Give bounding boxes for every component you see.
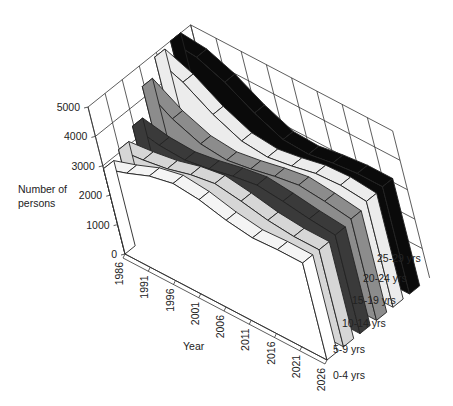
series-label: 25-29 yrs — [377, 252, 421, 264]
x-tick-label: 2021 — [290, 355, 302, 379]
x-axis-title: Year — [183, 340, 205, 352]
y-tick-label: 3000 — [71, 160, 95, 172]
y-tick-label: 5000 — [57, 101, 81, 113]
x-tick-label: 1996 — [164, 288, 176, 312]
y-tick-label: 4000 — [64, 130, 88, 142]
x-tick-label: 2016 — [265, 341, 277, 365]
y-axis-title-line2: persons — [18, 197, 55, 209]
series-label: 10-14 yrs — [342, 317, 386, 329]
series-label: 15-19 yrs — [352, 294, 396, 306]
x-tick-label: 2026 — [315, 368, 327, 392]
x-tick-label: 1991 — [138, 275, 150, 299]
y-tick-label: 2000 — [79, 189, 103, 201]
y-tick-label: 1000 — [86, 219, 110, 231]
x-tick-label: 2011 — [239, 328, 251, 351]
series-ribbons — [104, 33, 420, 360]
ribbon-chart: 0100020003000400050001986199119962001200… — [0, 0, 453, 406]
x-tick-label: 2006 — [214, 315, 226, 339]
series-label: 20-24 yrs — [363, 272, 407, 284]
x-tick-label: 1986 — [113, 262, 125, 286]
series-label: 0-4 yrs — [333, 369, 365, 381]
x-tick-label: 2001 — [189, 302, 201, 326]
y-axis-title-line1: Number of — [18, 183, 67, 195]
series-label: 5-9 yrs — [333, 343, 365, 355]
y-tick-label: 0 — [111, 248, 117, 260]
